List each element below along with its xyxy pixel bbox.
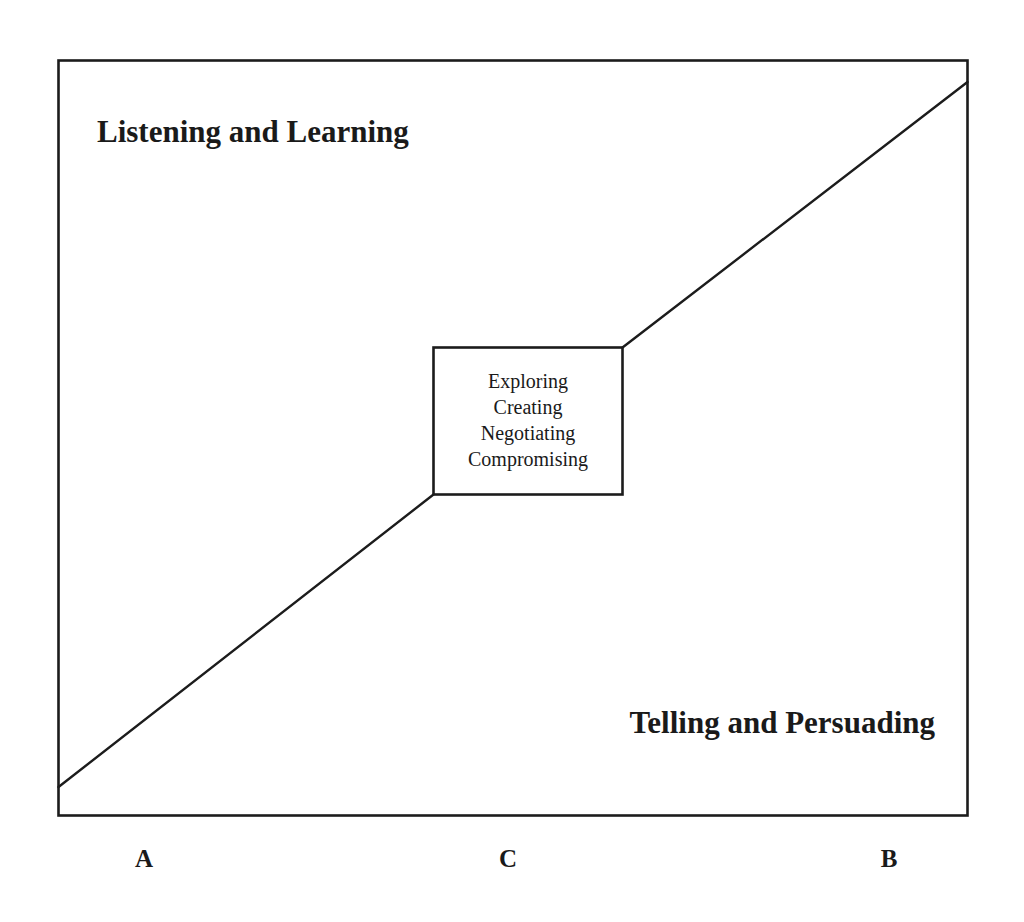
continuum-diagram: Exploring Creating Negotiating Compromis… [0,0,1024,922]
axis-point-a: A [135,845,153,872]
axis-point-c: C [499,845,517,872]
center-box-line-creating: Creating [494,396,563,419]
region-label-listening-learning: Listening and Learning [97,114,409,149]
diagonal-line-upper [623,82,968,348]
center-box-line-negotiating: Negotiating [481,422,575,445]
center-box-line-exploring: Exploring [488,370,568,393]
diagonal-line-lower [59,495,434,788]
region-label-telling-persuading: Telling and Persuading [629,705,935,740]
axis-point-b: B [881,845,898,872]
center-box-line-compromising: Compromising [468,448,588,471]
